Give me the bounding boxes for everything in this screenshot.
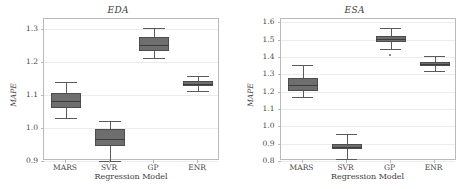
gridline <box>281 40 455 41</box>
x-tick-label-mars: MARS <box>290 163 314 172</box>
y-tick-label: 1.3 <box>12 23 38 32</box>
panel-title-esa: ESA <box>237 5 473 15</box>
y-tick-mark <box>41 161 44 162</box>
median-line <box>376 39 406 40</box>
y-tick-label: 1.1 <box>249 104 275 113</box>
cap-upper <box>336 134 358 135</box>
panel-esa: ESA MAPE Regression Model 0.80.91.01.11.… <box>237 0 473 189</box>
y-tick-label: 0.9 <box>249 138 275 147</box>
cap-upper <box>99 121 121 122</box>
whisker-lower <box>347 149 348 159</box>
cap-lower <box>380 49 402 50</box>
y-tick-mark <box>278 74 281 75</box>
cap-upper <box>55 82 77 83</box>
cap-upper <box>292 65 314 66</box>
gridline <box>281 92 455 93</box>
cap-lower <box>55 118 77 119</box>
y-tick-mark <box>41 128 44 129</box>
cap-upper <box>380 28 402 29</box>
y-tick-mark <box>41 62 44 63</box>
median-line <box>183 84 213 85</box>
gridline <box>281 22 455 23</box>
y-tick-label: 1.3 <box>249 69 275 78</box>
outlier-marker <box>389 54 391 56</box>
whisker-upper <box>347 134 348 144</box>
gridline <box>281 109 455 110</box>
y-tick-label: 0.9 <box>12 156 38 165</box>
box-svr <box>95 129 125 147</box>
cap-lower <box>187 91 209 92</box>
whisker-upper <box>154 28 155 37</box>
x-axis-label-eda: Regression Model <box>43 172 219 181</box>
panel-title-eda: EDA <box>0 5 237 15</box>
y-tick-label: 1.2 <box>249 86 275 95</box>
gridline <box>44 161 218 162</box>
median-line <box>332 147 362 148</box>
cap-lower <box>292 97 314 98</box>
cap-upper <box>424 56 446 57</box>
whisker-upper <box>303 65 304 78</box>
whisker-upper <box>391 28 392 37</box>
cap-upper <box>143 28 165 29</box>
y-tick-mark <box>278 22 281 23</box>
y-tick-label: 1.4 <box>249 52 275 61</box>
x-tick-label-svr: SVR <box>337 163 353 172</box>
gridline <box>44 29 218 30</box>
whisker-lower <box>391 42 392 49</box>
y-tick-mark <box>278 126 281 127</box>
median-line <box>139 45 169 46</box>
y-tick-label: 1.5 <box>249 34 275 43</box>
plot-area-esa <box>280 18 456 160</box>
panel-eda: EDA MAPE Regression Model 0.91.01.11.21.… <box>0 0 237 189</box>
figure-boxplot-panels: EDA MAPE Regression Model 0.91.01.11.21.… <box>0 0 473 189</box>
gridline <box>44 62 218 63</box>
y-tick-label: 1.0 <box>249 121 275 130</box>
y-tick-mark <box>278 161 281 162</box>
box-gp <box>139 37 169 51</box>
whisker-upper <box>110 121 111 129</box>
x-tick-label-gp: GP <box>147 163 158 172</box>
y-tick-mark <box>41 95 44 96</box>
y-tick-label: 1.6 <box>249 17 275 26</box>
whisker-upper <box>66 82 67 93</box>
whisker-lower <box>66 108 67 118</box>
cap-lower <box>143 58 165 59</box>
y-tick-label: 1.0 <box>12 122 38 131</box>
x-tick-label-enr: ENR <box>425 163 443 172</box>
y-tick-mark <box>41 29 44 30</box>
y-tick-label: 0.8 <box>249 156 275 165</box>
whisker-lower <box>110 146 111 161</box>
x-tick-label-enr: ENR <box>188 163 206 172</box>
x-tick-label-svr: SVR <box>101 163 117 172</box>
gridline <box>281 74 455 75</box>
y-tick-label: 1.2 <box>12 56 38 65</box>
y-tick-mark <box>278 40 281 41</box>
cap-upper <box>187 76 209 77</box>
y-tick-mark <box>278 57 281 58</box>
x-axis-label-esa: Regression Model <box>280 172 456 181</box>
median-line <box>288 85 318 86</box>
median-line <box>51 101 81 102</box>
y-tick-mark <box>278 92 281 93</box>
whisker-lower <box>154 51 155 58</box>
median-line <box>420 64 450 65</box>
plot-area-eda <box>43 18 219 160</box>
y-tick-mark <box>278 144 281 145</box>
gridline <box>281 161 455 162</box>
y-tick-mark <box>278 109 281 110</box>
gridline <box>281 144 455 145</box>
gridline <box>281 126 455 127</box>
x-tick-label-gp: GP <box>384 163 395 172</box>
cap-lower <box>424 71 446 72</box>
y-tick-label: 1.1 <box>12 89 38 98</box>
median-line <box>95 139 125 140</box>
x-tick-label-mars: MARS <box>53 163 77 172</box>
gridline <box>44 128 218 129</box>
